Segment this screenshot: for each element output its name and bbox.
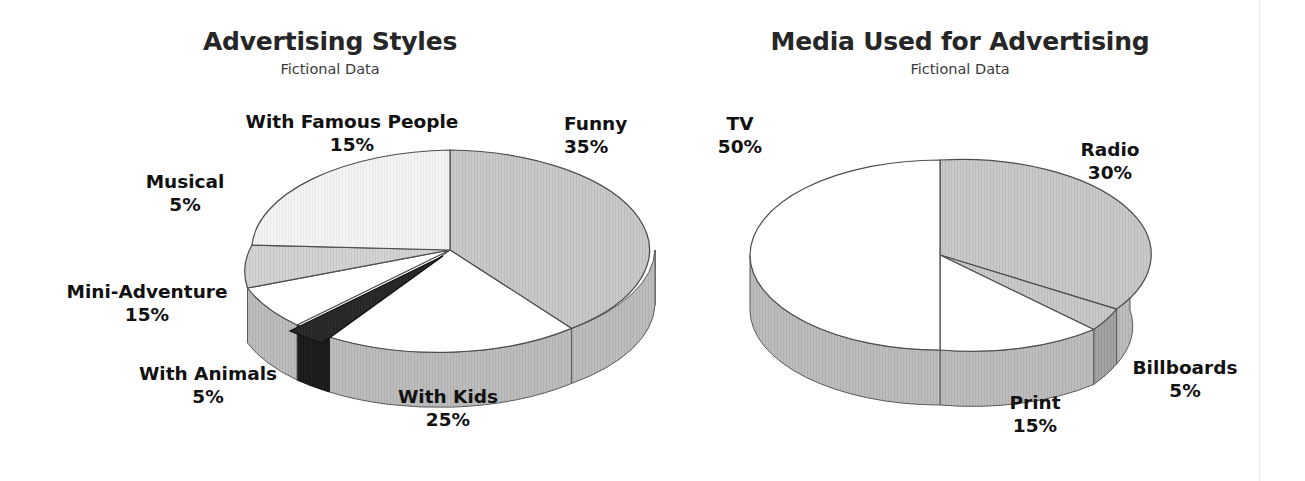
pie-top-slices-right	[750, 159, 1151, 351]
chart-media-used-for-advertising: Media Used for Advertising Fictional Dat…	[660, 0, 1260, 481]
pie-chart-figure: Advertising Styles Fictional Data	[0, 0, 1305, 481]
pie-label-tv-name: TV	[727, 113, 754, 134]
pie-label-funny-pct: 35%	[564, 136, 627, 159]
pie-label-with-animals-name: With Animals	[139, 363, 277, 384]
pie-label-musical-pct: 5%	[120, 194, 250, 217]
chart-advertising-styles: Advertising Styles Fictional Data	[0, 0, 660, 481]
pie-label-billboards: Billboards 5%	[1115, 357, 1255, 402]
pie-label-radio-name: Radio	[1080, 139, 1139, 160]
pie-label-billboards-pct: 5%	[1115, 380, 1255, 403]
pie-label-musical-name: Musical	[146, 171, 225, 192]
pie-label-tv: TV 50%	[675, 113, 805, 158]
pie-label-with-animals: With Animals 5%	[128, 363, 288, 408]
pie-label-mini-adventure: Mini-Adventure 15%	[52, 281, 242, 326]
pie-label-mini-adventure-name: Mini-Adventure	[67, 281, 228, 302]
pie-label-with-animals-pct: 5%	[128, 386, 288, 409]
pie-label-musical: Musical 5%	[120, 171, 250, 216]
pie-label-with-famous-people-name: With Famous People	[246, 111, 459, 132]
pie-label-radio-pct: 30%	[1050, 162, 1170, 185]
pie-label-radio: Radio 30%	[1050, 139, 1170, 184]
pie-label-funny: Funny 35%	[564, 113, 627, 158]
pie-label-print-name: Print	[1009, 392, 1060, 413]
pie-graphic-left	[0, 0, 660, 481]
pie-label-billboards-name: Billboards	[1133, 357, 1238, 378]
pie-label-print-pct: 15%	[980, 415, 1090, 438]
pie-label-print: Print 15%	[980, 392, 1090, 437]
pie-label-with-kids-pct: 25%	[368, 409, 528, 432]
pie-label-with-kids: With Kids 25%	[368, 386, 528, 431]
pie-label-tv-pct: 50%	[675, 136, 805, 159]
pie-label-funny-name: Funny	[564, 113, 627, 134]
pie-label-with-famous-people-pct: 15%	[237, 134, 467, 157]
pie-slice-with-famous-people	[252, 150, 450, 250]
pie-graphic-right	[660, 0, 1260, 481]
pie-label-with-kids-name: With Kids	[398, 386, 498, 407]
pie-label-mini-adventure-pct: 15%	[52, 304, 242, 327]
pie-label-with-famous-people: With Famous People 15%	[237, 111, 467, 156]
